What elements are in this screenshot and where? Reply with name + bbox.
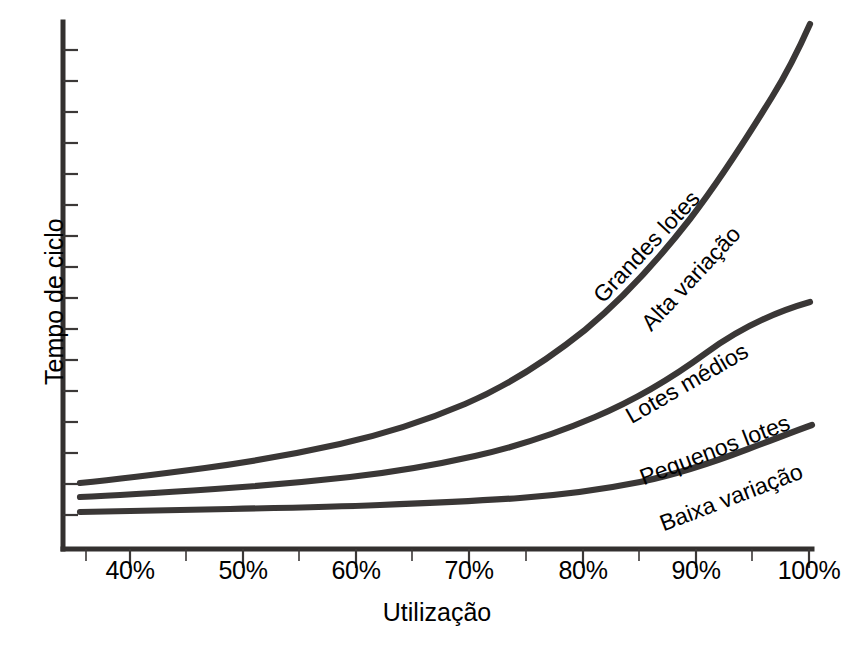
cycle-time-utilization-chart: 40% 50% 60% 70% 80% 90% 100% Utilização … [0,0,849,657]
y-axis-title: Tempo de ciclo [40,218,69,385]
x-axis-title: Utilização [383,598,491,627]
